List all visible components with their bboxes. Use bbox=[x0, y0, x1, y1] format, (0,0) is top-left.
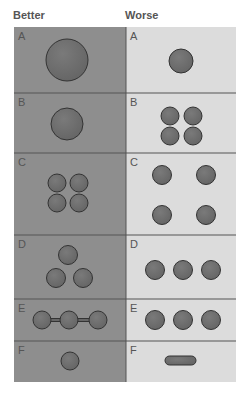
circle-shape bbox=[51, 108, 83, 140]
worse-row-label: C bbox=[130, 156, 138, 168]
circle-shape bbox=[74, 269, 93, 288]
circle-shape bbox=[202, 261, 221, 280]
circle-shape bbox=[161, 107, 179, 125]
worse-row-label: E bbox=[130, 302, 137, 314]
circle-shape bbox=[60, 311, 78, 329]
circle-shape bbox=[48, 174, 66, 192]
worse-row-label: F bbox=[130, 344, 137, 356]
circle-shape bbox=[174, 261, 193, 280]
better-row-label: C bbox=[18, 156, 26, 168]
worse-cell-C bbox=[126, 153, 236, 235]
circle-shape bbox=[61, 352, 79, 370]
circle-shape bbox=[89, 311, 107, 329]
worse-row-label: B bbox=[130, 96, 137, 108]
better-row-label: D bbox=[18, 238, 26, 250]
worse-row-label: D bbox=[130, 238, 138, 250]
circle-shape bbox=[202, 311, 221, 330]
better-row-label: A bbox=[18, 30, 26, 42]
better-cell-C bbox=[14, 153, 126, 235]
better-cell-D bbox=[14, 235, 126, 299]
circle-shape bbox=[33, 311, 51, 329]
circle-shape bbox=[184, 107, 202, 125]
circle-shape bbox=[70, 194, 88, 212]
pill-shape bbox=[165, 356, 196, 365]
circle-shape bbox=[146, 261, 165, 280]
circle-shape bbox=[197, 206, 216, 225]
circle-shape bbox=[48, 194, 66, 212]
worse-row-label: A bbox=[130, 30, 138, 42]
circle-shape bbox=[169, 49, 193, 73]
circle-shape bbox=[197, 166, 216, 185]
circle-shape bbox=[146, 311, 165, 330]
circle-shape bbox=[46, 39, 88, 81]
circle-shape bbox=[161, 127, 179, 145]
circle-shape bbox=[153, 166, 172, 185]
better-row-label: E bbox=[18, 302, 25, 314]
circle-shape bbox=[70, 174, 88, 192]
comparison-grid: AABBCCDDEEFF bbox=[0, 0, 247, 400]
better-row-label: B bbox=[18, 96, 25, 108]
circle-shape bbox=[47, 269, 66, 288]
circle-shape bbox=[174, 311, 193, 330]
circle-shape bbox=[59, 246, 78, 265]
worse-cell-B bbox=[126, 93, 236, 153]
circle-shape bbox=[184, 127, 202, 145]
better-row-label: F bbox=[18, 344, 25, 356]
circle-shape bbox=[153, 206, 172, 225]
